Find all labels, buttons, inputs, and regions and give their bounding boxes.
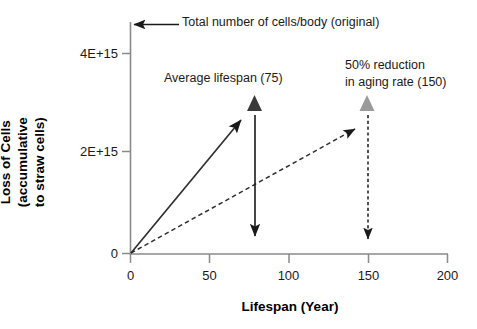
- y-tick-label-4e15: 4E+15: [56, 46, 118, 61]
- average-lifespan-annotation: Average lifespan (75): [164, 71, 283, 86]
- y-tick-label-2e15: 2E+15: [56, 144, 118, 159]
- reduction-annotation-line1: 50% reduction: [345, 58, 425, 72]
- series-normal-aging-line: [131, 120, 241, 253]
- x-axis-title: Lifespan (Year): [190, 299, 390, 315]
- x-tick-label-0: 0: [110, 268, 151, 283]
- y-axis-ticks: [122, 54, 131, 254]
- reduction-annotation-line2: in aging rate (150): [345, 75, 446, 89]
- x-tick-label-150: 150: [348, 268, 389, 283]
- reduced-aging-triangle-marker: [360, 95, 375, 111]
- y-tick-label-0: 0: [56, 246, 118, 261]
- x-axis-ticks: [131, 254, 448, 263]
- chart-figure: 4E+15 2E+15 0 0 50 100 150 200 Loss of C…: [0, 0, 477, 329]
- x-tick-label-200: 200: [427, 268, 468, 283]
- y-axis-title-line1: Loss of Cells (accumulative: [0, 117, 30, 207]
- average-lifespan-triangle-marker: [247, 95, 262, 111]
- series-reduced-aging-line: [131, 129, 355, 253]
- reduction-annotation: 50% reduction in aging rate (150): [345, 57, 470, 90]
- y-axis-title-line2: to straw cells): [31, 117, 46, 207]
- y-axis-title: Loss of Cells (accumulative to straw cel…: [2, 50, 44, 275]
- total-cells-annotation: Total number of cells/body (original): [182, 15, 379, 30]
- x-tick-label-50: 50: [189, 268, 230, 283]
- x-tick-label-100: 100: [268, 268, 309, 283]
